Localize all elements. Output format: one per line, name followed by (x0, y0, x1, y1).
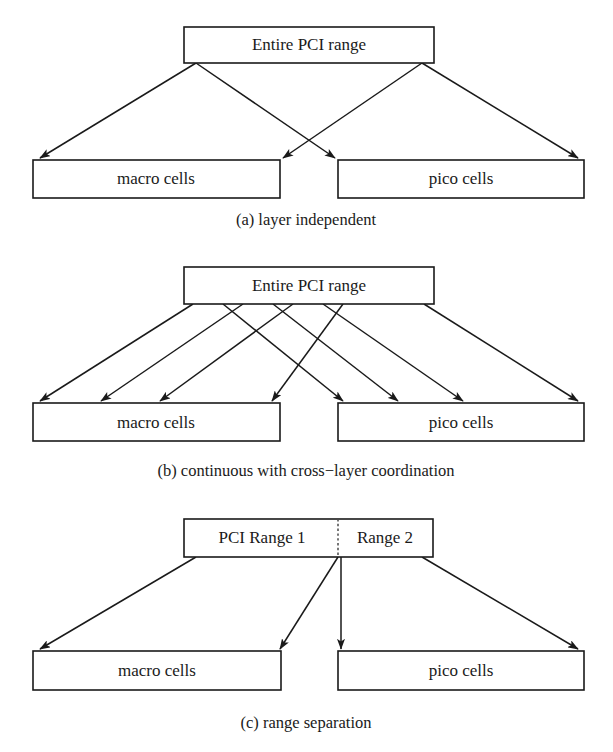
pico-cells-label: pico cells (429, 169, 494, 188)
panel-a: Entire PCI range macro cells pico cells … (33, 27, 584, 229)
panel-c-top-box[interactable]: PCI Range 1 Range 2 (184, 519, 433, 557)
arrow-range-to-macro-inner (283, 63, 422, 158)
pico-cells-label: pico cells (429, 661, 494, 680)
entire-pci-range-label: Entire PCI range (252, 276, 366, 295)
panel-b-caption: (b) continuous with cross−layer coordina… (157, 461, 454, 480)
arrow-c-range1-to-macro-outer (40, 557, 196, 649)
panel-c-caption: (c) range separation (240, 713, 371, 732)
panel-b-macro-box[interactable]: macro cells (33, 403, 280, 441)
panel-c-pico-box[interactable]: pico cells (338, 651, 584, 690)
arrow-b-1-macro (40, 304, 193, 401)
arrow-b-2-macro (101, 304, 243, 401)
panel-a-caption: (a) layer independent (236, 210, 377, 229)
macro-cells-label: macro cells (117, 413, 195, 432)
arrow-b-7-pico (323, 304, 463, 401)
panel-c: PCI Range 1 Range 2 macro cells pico cel… (33, 519, 584, 732)
arrow-c-range1-to-macro-inner (280, 557, 338, 649)
macro-cells-label: macro cells (117, 169, 195, 188)
pico-cells-label: pico cells (429, 413, 494, 432)
arrow-b-3-macro (160, 304, 293, 401)
panel-b-pico-box[interactable]: pico cells (338, 403, 584, 441)
arrow-range-to-pico-outer (422, 63, 578, 158)
panel-b-edges (40, 304, 578, 401)
macro-cells-label: macro cells (118, 661, 196, 680)
panel-b: Entire PCI range macro cells pico cells … (33, 267, 584, 480)
arrow-b-6-pico (273, 304, 398, 401)
range-2-label: Range 2 (357, 528, 413, 547)
panel-a-macro-box[interactable]: macro cells (33, 160, 280, 198)
panel-a-pico-box[interactable]: pico cells (338, 160, 584, 198)
arrow-range-to-macro-outer (40, 63, 196, 158)
pci-range-1-label: PCI Range 1 (219, 528, 306, 547)
arrow-range-to-pico-inner (196, 63, 335, 158)
arrow-c-range2-to-pico-outer (422, 557, 578, 649)
panel-a-edges (40, 63, 578, 158)
panel-a-top-box[interactable]: Entire PCI range (184, 27, 434, 63)
arrow-b-8-pico (424, 304, 578, 401)
panel-c-edges (40, 557, 578, 649)
panel-b-top-box[interactable]: Entire PCI range (184, 267, 434, 304)
panel-c-macro-box[interactable]: macro cells (33, 651, 281, 690)
figure-canvas: Entire PCI range macro cells pico cells … (0, 0, 613, 752)
entire-pci-range-label: Entire PCI range (252, 35, 366, 54)
